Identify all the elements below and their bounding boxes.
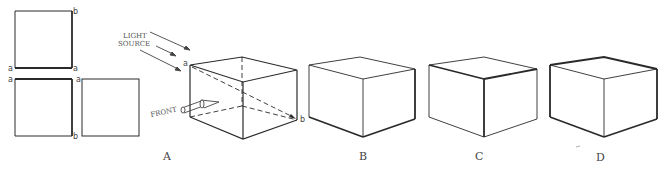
bl-square-label-b: b	[73, 132, 78, 141]
figure-label-d: D	[596, 151, 605, 164]
top-square-label-a-left: a	[8, 64, 13, 73]
light-source-label-2: SOURCE	[118, 40, 150, 48]
top-square	[15, 11, 72, 68]
box-a-label-a: a	[183, 59, 188, 68]
bottom-right-square	[82, 79, 139, 136]
top-square-label-b: b	[73, 7, 78, 16]
figure-label-a: A	[162, 150, 172, 163]
box-a	[190, 57, 297, 139]
top-square-label-a-right: a	[73, 64, 78, 73]
box-a-label-b: b	[300, 115, 305, 124]
figure-label-b: B	[359, 150, 367, 163]
front-arrow	[181, 100, 219, 113]
bottom-left-square	[15, 79, 72, 136]
box-d	[550, 57, 657, 137]
bl-square-label-a: a	[8, 75, 13, 84]
box-b	[309, 57, 415, 137]
reference-squares	[15, 11, 139, 136]
figure-label-c: C	[475, 150, 483, 163]
line-weight-diagram: b a a a b a a b LIGHT SOURCE FRONT A B C…	[0, 0, 667, 169]
box-c	[429, 57, 537, 137]
br-square-label-a: a	[76, 75, 81, 84]
stray-mark	[576, 146, 580, 147]
diagram-svg: b a a a b a a b LIGHT SOURCE FRONT A B C…	[0, 0, 667, 169]
front-label: FRONT	[150, 106, 178, 119]
light-source-label-1: LIGHT	[123, 32, 147, 40]
